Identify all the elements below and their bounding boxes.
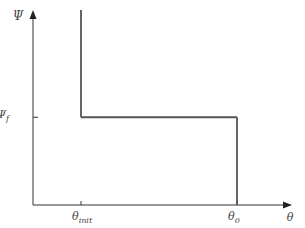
x-axis-label: θ <box>287 211 294 224</box>
y-tick-label: Ψf <box>0 108 11 123</box>
y-axis-label: Ψ <box>13 9 24 23</box>
diagram: θinitθ0ΨfΨθ <box>0 0 305 228</box>
x-axis-arrow-icon <box>283 202 292 209</box>
x-tick-label: θ0 <box>228 210 240 225</box>
x-tick-label: θinit <box>72 210 93 225</box>
y-axis-arrow-icon <box>30 10 37 19</box>
